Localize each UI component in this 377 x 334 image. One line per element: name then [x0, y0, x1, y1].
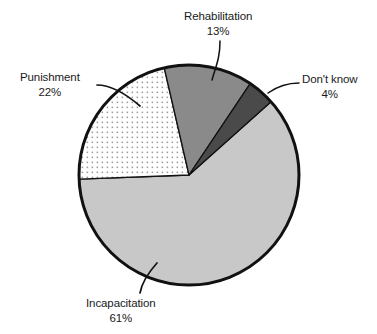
- slice-label-incapacitation-name: Incapacitation: [86, 296, 156, 311]
- pie-chart-canvas: [0, 0, 377, 334]
- slice-label-rehabilitation-name: Rehabilitation: [184, 9, 252, 24]
- slice-label-punishment-value: 22%: [20, 85, 80, 100]
- leader-line-dont-know: [268, 83, 299, 93]
- pie-chart: Rehabilitation 13% Punishment 22% Don't …: [0, 0, 377, 334]
- slice-label-punishment: Punishment 22%: [20, 70, 80, 100]
- slice-label-incapacitation: Incapacitation 61%: [86, 296, 156, 326]
- slice-label-dont-know: Don't know 4%: [302, 72, 358, 102]
- slice-label-punishment-name: Punishment: [20, 70, 80, 85]
- slice-label-rehabilitation-value: 13%: [184, 24, 252, 39]
- slice-label-incapacitation-value: 61%: [86, 311, 156, 326]
- slice-label-rehabilitation: Rehabilitation 13%: [184, 9, 252, 39]
- slice-label-dont-know-value: 4%: [302, 87, 358, 102]
- slice-label-dont-know-name: Don't know: [302, 72, 358, 87]
